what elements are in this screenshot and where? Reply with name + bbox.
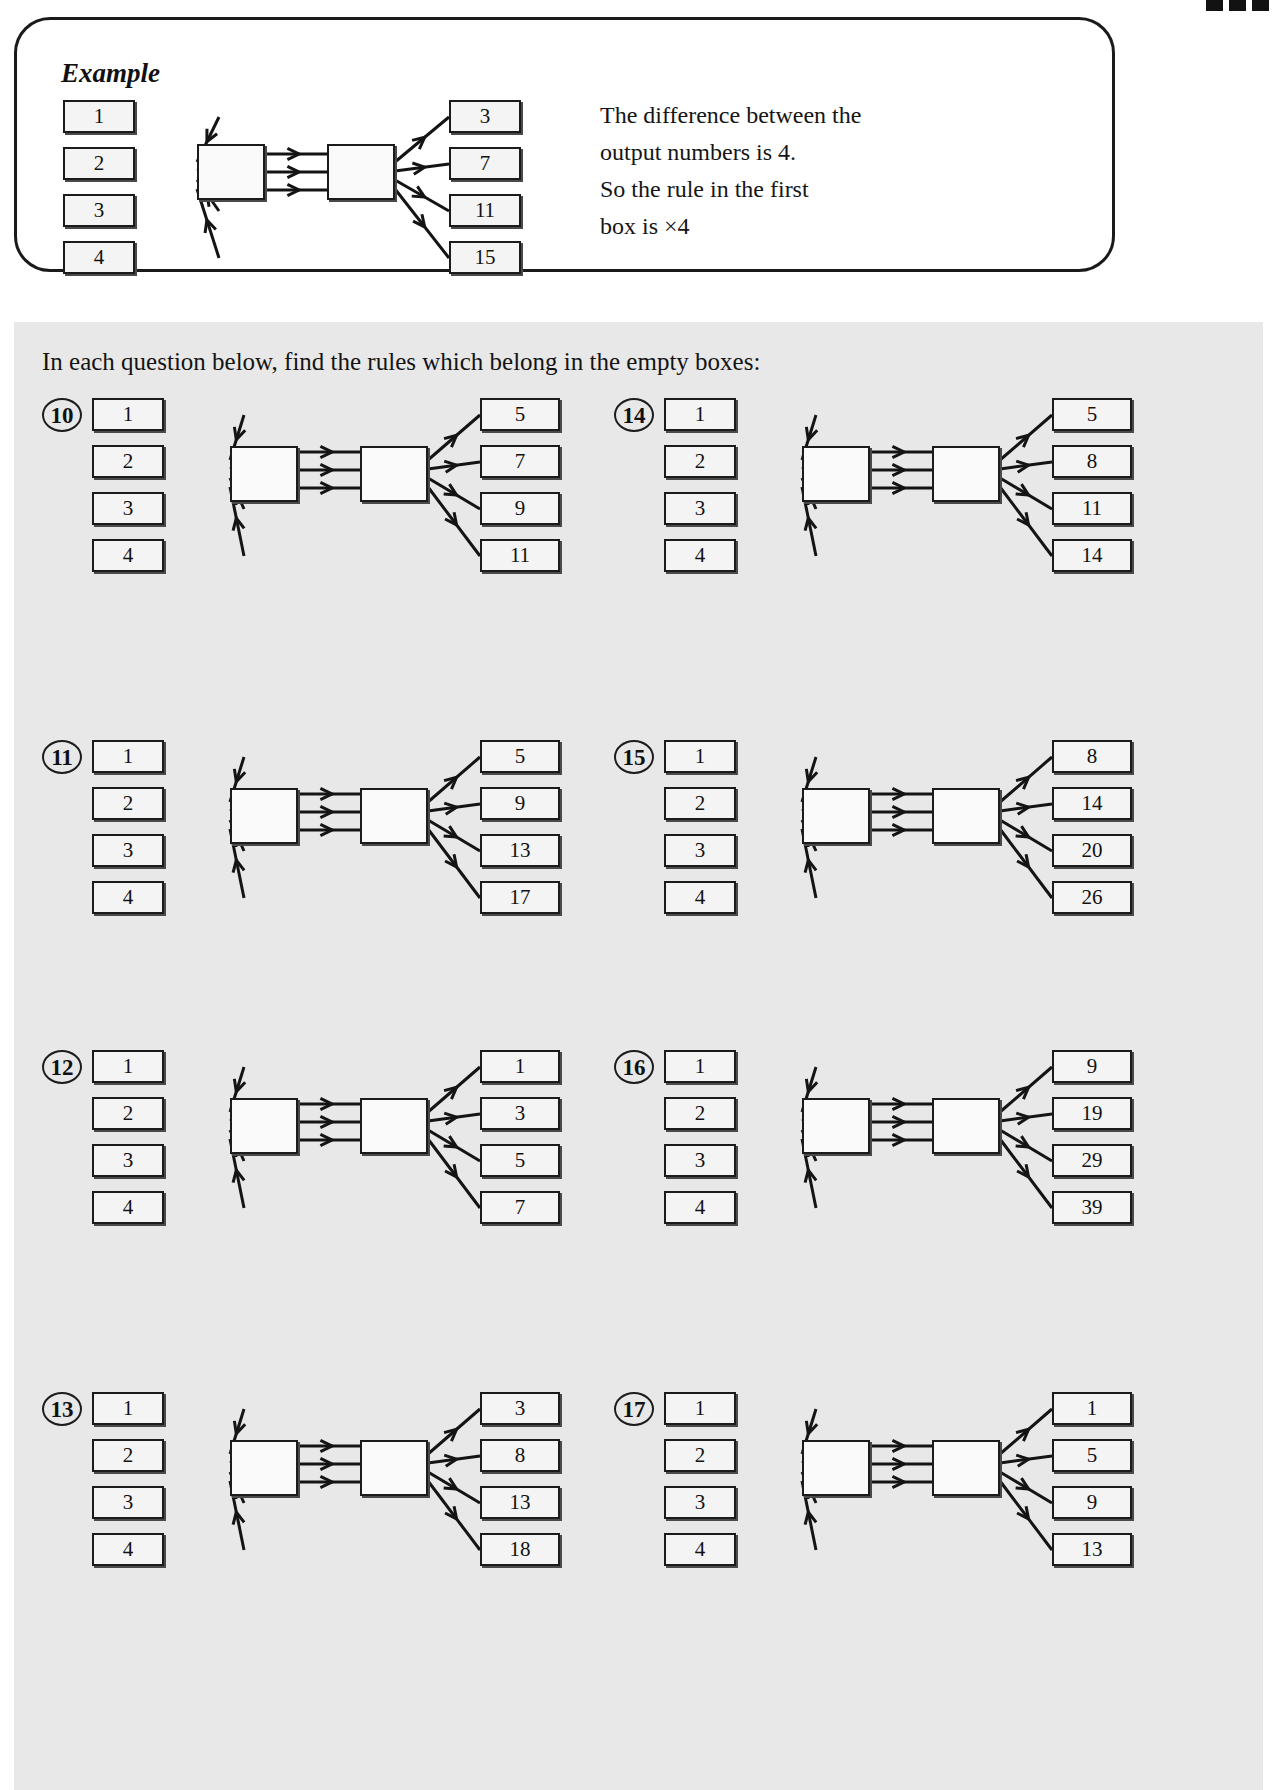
example-input-box: 4 (63, 241, 135, 274)
rule-box-second[interactable] (932, 1098, 1000, 1154)
input-box: 2 (664, 1097, 736, 1130)
output-box: 11 (1052, 492, 1132, 525)
function-machine-question-13: 131234381318 (42, 1384, 552, 1554)
registration-mark (1229, 0, 1246, 11)
rule-box-second[interactable] (360, 1098, 428, 1154)
output-box: 9 (480, 787, 560, 820)
output-box: 20 (1052, 834, 1132, 867)
input-box: 4 (664, 539, 736, 572)
output-box: 1 (480, 1050, 560, 1083)
output-box: 9 (480, 492, 560, 525)
rule-box-first[interactable] (802, 788, 870, 844)
question-number: 17 (614, 1392, 654, 1426)
output-box: 9 (1052, 1486, 1132, 1519)
input-box: 1 (92, 398, 164, 431)
output-box: 7 (480, 1191, 560, 1224)
input-box: 3 (664, 834, 736, 867)
worksheet-instruction: In each question below, find the rules w… (42, 348, 760, 376)
input-box: 2 (664, 1439, 736, 1472)
input-box: 4 (664, 1191, 736, 1224)
output-box: 14 (1052, 539, 1132, 572)
output-box: 9 (1052, 1050, 1132, 1083)
input-box: 3 (92, 1486, 164, 1519)
example-explanation-line: The difference between the (600, 97, 1030, 134)
input-box: 1 (92, 740, 164, 773)
example-input-box: 1 (63, 100, 135, 133)
registration-mark (1206, 0, 1223, 11)
example-explanation-line: So the rule in the first (600, 171, 1030, 208)
rule-box-first[interactable] (230, 1440, 298, 1496)
input-box: 3 (664, 1144, 736, 1177)
function-machine-question-10: 10123457911 (42, 390, 552, 560)
function-machine-question-16: 1612349192939 (614, 1042, 1124, 1212)
output-box: 17 (480, 881, 560, 914)
output-box: 14 (1052, 787, 1132, 820)
example-rule-box-first (197, 144, 265, 200)
question-number: 11 (42, 740, 82, 774)
question-number: 14 (614, 398, 654, 432)
rule-box-second[interactable] (932, 446, 1000, 502)
function-machine-question-17: 17123415913 (614, 1384, 1124, 1554)
input-box: 3 (664, 1486, 736, 1519)
output-box: 26 (1052, 881, 1132, 914)
output-box: 11 (480, 539, 560, 572)
input-box: 1 (664, 1392, 736, 1425)
example-explanation-line: box is ×4 (600, 208, 1030, 245)
output-box: 13 (480, 1486, 560, 1519)
output-box: 19 (1052, 1097, 1132, 1130)
input-box: 2 (92, 787, 164, 820)
input-box: 2 (664, 445, 736, 478)
rule-box-second[interactable] (932, 788, 1000, 844)
example-function-machine: 1 2 3 4 3 7 11 15 (57, 92, 537, 262)
example-input-box: 2 (63, 147, 135, 180)
function-machine-question-12: 1212341357 (42, 1042, 552, 1212)
question-number: 15 (614, 740, 654, 774)
rule-box-second[interactable] (360, 788, 428, 844)
output-box: 1 (1052, 1392, 1132, 1425)
input-box: 2 (92, 1097, 164, 1130)
input-box: 3 (92, 1144, 164, 1177)
output-box: 39 (1052, 1191, 1132, 1224)
example-panel: Example 1 2 3 4 3 7 11 15 The difference… (14, 17, 1115, 272)
question-number: 13 (42, 1392, 82, 1426)
rule-box-first[interactable] (230, 1098, 298, 1154)
input-box: 4 (92, 1191, 164, 1224)
rule-box-second[interactable] (360, 446, 428, 502)
input-box: 2 (92, 445, 164, 478)
function-machine-question-15: 1512348142026 (614, 732, 1124, 902)
output-box: 13 (480, 834, 560, 867)
rule-box-first[interactable] (802, 1098, 870, 1154)
output-box: 5 (1052, 1439, 1132, 1472)
rule-box-first[interactable] (230, 788, 298, 844)
output-box: 18 (480, 1533, 560, 1566)
rule-box-first[interactable] (230, 446, 298, 502)
example-input-box: 3 (63, 194, 135, 227)
example-output-box: 15 (449, 241, 521, 274)
input-box: 1 (92, 1050, 164, 1083)
example-explanation-line: output numbers is 4. (600, 134, 1030, 171)
input-box: 1 (664, 1050, 736, 1083)
function-machine-question-11: 111234591317 (42, 732, 552, 902)
output-box: 5 (480, 740, 560, 773)
output-box: 5 (480, 398, 560, 431)
input-box: 2 (664, 787, 736, 820)
rule-box-first[interactable] (802, 446, 870, 502)
registration-marks (1206, 0, 1269, 11)
input-box: 1 (664, 740, 736, 773)
example-output-box: 3 (449, 100, 521, 133)
input-box: 4 (664, 881, 736, 914)
question-number: 12 (42, 1050, 82, 1084)
output-box: 5 (1052, 398, 1132, 431)
input-box: 1 (664, 398, 736, 431)
output-box: 7 (480, 445, 560, 478)
rule-box-second[interactable] (932, 1440, 1000, 1496)
output-box: 8 (1052, 445, 1132, 478)
example-output-box: 11 (449, 194, 521, 227)
rule-box-second[interactable] (360, 1440, 428, 1496)
input-box: 3 (92, 834, 164, 867)
output-box: 3 (480, 1097, 560, 1130)
worksheet-body: In each question below, find the rules w… (14, 322, 1263, 1790)
rule-box-first[interactable] (802, 1440, 870, 1496)
example-explanation: The difference between the output number… (600, 97, 1030, 245)
example-rule-box-second (327, 144, 395, 200)
